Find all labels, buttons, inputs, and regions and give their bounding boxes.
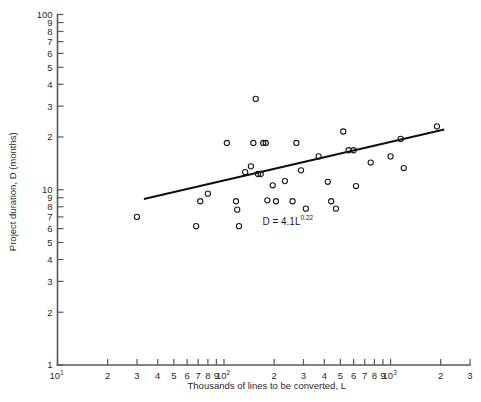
data-point xyxy=(388,154,393,159)
data-point xyxy=(333,206,338,211)
regression-line xyxy=(144,130,444,200)
data-point xyxy=(248,164,253,169)
x-tick-label: 4 xyxy=(155,370,160,381)
y-axis-ticks: 1234567891023456789100 xyxy=(37,9,64,371)
y-tick-label: 7 xyxy=(47,211,52,222)
x-tick-label: 5 xyxy=(171,370,176,381)
y-tick-label: 5 xyxy=(47,62,52,73)
regression-line-layer xyxy=(144,130,444,200)
x-axis-ticks: 101234567891022345678910323 xyxy=(50,359,473,381)
data-point xyxy=(198,199,203,204)
y-tick-label: 4 xyxy=(47,79,52,90)
equation-exponent: 0.22 xyxy=(300,214,313,221)
data-point xyxy=(368,160,373,165)
x-axis-title: Thousands of lines to be converted, L xyxy=(188,380,346,391)
y-tick-label: 10 xyxy=(42,184,53,195)
x-tick-label: 2 xyxy=(438,370,443,381)
x-tick-label: 3 xyxy=(134,370,139,381)
data-point xyxy=(341,129,346,134)
y-tick-label: 3 xyxy=(47,101,52,112)
data-point xyxy=(353,183,358,188)
data-point xyxy=(298,168,303,173)
data-point xyxy=(290,199,295,204)
y-tick-label: 3 xyxy=(47,276,52,287)
x-tick-label: 7 xyxy=(362,370,367,381)
data-point xyxy=(194,224,199,229)
y-tick-label: 2 xyxy=(47,131,52,142)
fit-equation: D = 4.1L0.22 xyxy=(262,214,313,227)
x-tick-label: 2 xyxy=(105,370,110,381)
y-tick-label: 100 xyxy=(37,9,53,20)
scatter-plot: 1234567891023456789100 10123456789102234… xyxy=(0,0,481,402)
x-tick-label: 103 xyxy=(383,369,398,381)
data-point xyxy=(282,179,287,184)
x-tick-label: 3 xyxy=(467,370,472,381)
data-point xyxy=(303,206,308,211)
data-point xyxy=(270,183,275,188)
y-tick-label: 7 xyxy=(47,36,52,47)
x-tick-label: 101 xyxy=(50,369,65,381)
data-point xyxy=(265,198,270,203)
data-point xyxy=(434,124,439,129)
data-point xyxy=(329,199,334,204)
y-tick-label: 6 xyxy=(47,48,52,59)
chart-figure: 1234567891023456789100 10123456789102234… xyxy=(0,0,481,402)
data-point xyxy=(224,140,229,145)
data-point xyxy=(235,207,240,212)
y-tick-label: 2 xyxy=(47,307,52,318)
data-point xyxy=(401,165,406,170)
data-point xyxy=(253,96,258,101)
data-point xyxy=(294,140,299,145)
x-tick-label: 8 xyxy=(372,370,377,381)
y-tick-label: 1 xyxy=(47,359,52,370)
data-point xyxy=(325,179,330,184)
x-tick-label: 6 xyxy=(351,370,356,381)
data-point xyxy=(236,224,241,229)
data-points-layer xyxy=(134,96,439,228)
y-tick-label: 6 xyxy=(47,223,52,234)
y-tick-label: 4 xyxy=(47,254,52,265)
data-point xyxy=(273,199,278,204)
data-point xyxy=(205,191,210,196)
equation-base: D = 4.1L xyxy=(262,216,301,227)
data-point xyxy=(134,214,139,219)
y-tick-label: 5 xyxy=(47,237,52,248)
axes-group xyxy=(58,15,471,366)
data-point xyxy=(233,199,238,204)
data-point xyxy=(251,140,256,145)
y-axis-title: Project duration, D (months) xyxy=(7,132,18,251)
equation-annotation-layer: D = 4.1L0.22 xyxy=(262,214,313,227)
data-point xyxy=(243,170,248,175)
